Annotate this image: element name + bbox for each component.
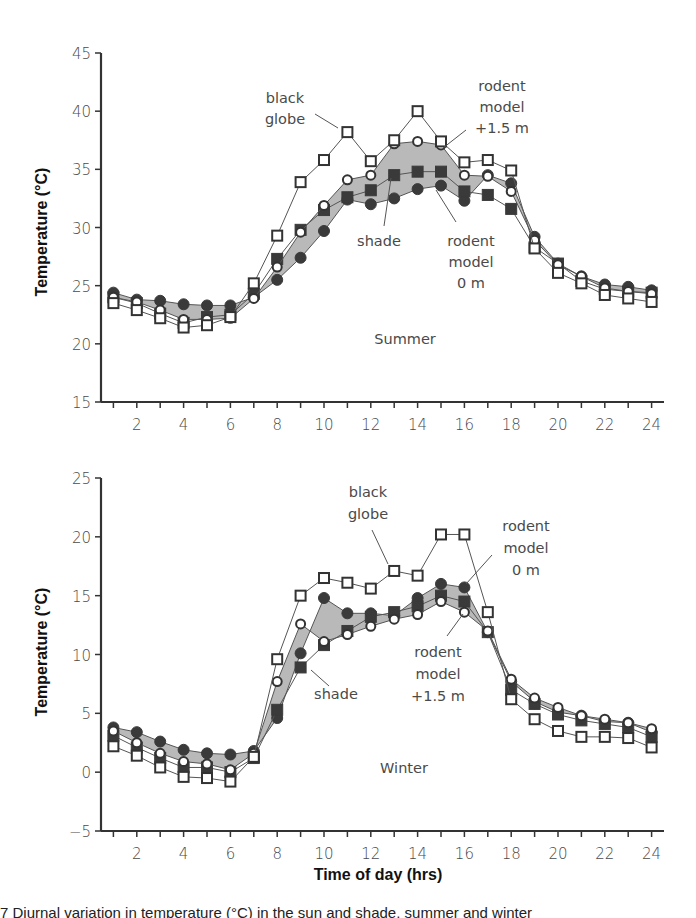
summer-x-tick-label: 10 <box>314 416 333 434</box>
summer-marker-rodent-model-0-m <box>436 180 447 191</box>
winter-line-black-globe <box>113 534 651 781</box>
winter-label-rodent-low-line3: 0 m <box>512 562 540 578</box>
winter-marker-black-globe <box>155 762 165 772</box>
winter-marker-shade <box>459 596 470 607</box>
winter-marker-shade <box>365 611 376 622</box>
winter-marker-black-globe <box>249 752 259 762</box>
summer-marker-black-globe <box>600 290 610 300</box>
winter-marker-black-globe <box>576 732 586 742</box>
winter-x-tick-label: 20 <box>548 845 567 863</box>
winter-leader-rodent-low <box>466 555 492 584</box>
summer-marker-shade <box>412 166 423 177</box>
winter-y-tick-label: 20 <box>72 529 91 547</box>
summer-label-black-globe-line2: globe <box>265 111 305 127</box>
summer-leader-rodent-low <box>436 190 456 222</box>
summer-marker-black-globe <box>225 312 235 322</box>
summer-x-tick-label: 8 <box>272 416 282 434</box>
winter-x-tick-label: 12 <box>361 845 380 863</box>
summer-marker-rodent-model-0-m <box>389 193 400 204</box>
winter-y-tick-label: 10 <box>72 647 91 665</box>
summer-marker-black-globe <box>155 313 165 323</box>
summer-marker-rodent-model-0-m <box>178 299 189 310</box>
winter-marker-rodent-model-1-5-m <box>437 597 446 606</box>
winter-marker-rodent-model-1-5-m <box>156 749 165 758</box>
winter-marker-rodent-model-1-5-m <box>624 718 633 727</box>
summer-label-rodent-high-line2: model <box>479 99 524 115</box>
winter-marker-rodent-model-0-m <box>178 744 189 755</box>
summer-y-tick-label: 20 <box>72 336 91 354</box>
winter-marker-rodent-model-1-5-m <box>413 610 422 619</box>
winter-x-tick-label: 8 <box>272 845 282 863</box>
summer-x-tick-label: 4 <box>179 416 189 434</box>
x-axis-title: Time of day (hrs) <box>314 866 443 883</box>
summer-label-rodent-low-line3: 0 m <box>457 275 485 291</box>
winter-marker-black-globe <box>413 571 423 581</box>
summer-y-tick-label: 45 <box>72 45 91 63</box>
summer-y-axis-title: Temperature (°C) <box>33 168 50 297</box>
winter-leader-black-globe <box>372 530 388 564</box>
winter-marker-rodent-model-1-5-m <box>530 694 539 703</box>
summer-marker-rodent-model-1-5-m <box>273 263 282 272</box>
summer-marker-rodent-model-0-m <box>319 225 330 236</box>
summer-x-tick-label: 18 <box>502 416 521 434</box>
winter-label-shade: shade <box>314 686 358 702</box>
winter-marker-black-globe <box>225 777 235 787</box>
summer-x-tick-label: 12 <box>361 416 380 434</box>
summer-marker-black-globe <box>249 278 259 288</box>
winter-label-rodent-low-line1: rodent <box>502 518 550 534</box>
winter-label-rodent-low-line2: model <box>503 540 548 556</box>
winter-marker-black-globe <box>366 584 376 594</box>
summer-marker-black-globe <box>483 155 493 165</box>
summer-marker-black-globe <box>576 278 586 288</box>
winter-label-black-globe-line2: globe <box>348 506 388 522</box>
summer-marker-rodent-model-0-m <box>365 199 376 210</box>
winter-marker-rodent-model-0-m <box>225 749 236 760</box>
summer-x-tick-label: 24 <box>642 416 661 434</box>
winter-chart-panel: −5051015202524681012141618202224 <box>69 470 664 863</box>
summer-marker-rodent-model-1-5-m <box>366 171 375 180</box>
summer-marker-rodent-model-1-5-m <box>483 172 492 181</box>
winter-marker-rodent-model-1-5-m <box>460 608 469 617</box>
summer-marker-black-globe <box>436 136 446 146</box>
winter-marker-rodent-model-1-5-m <box>343 630 352 639</box>
winter-label-rodent-high-line2: model <box>415 666 460 682</box>
winter-leader-rodent-high <box>447 614 463 636</box>
summer-marker-black-globe <box>342 127 352 137</box>
figure-canvas: 1520253035404524681012141618202224 −5051… <box>0 0 696 918</box>
winter-x-tick-label: 10 <box>314 845 333 863</box>
winter-y-tick-label: −5 <box>69 823 91 841</box>
summer-marker-black-globe <box>459 157 469 167</box>
winter-x-tick-label: 2 <box>132 845 142 863</box>
winter-marker-rodent-model-1-5-m <box>366 622 375 631</box>
summer-label-rodent-high-line1: rodent <box>478 78 526 94</box>
summer-x-tick-label: 22 <box>595 416 614 434</box>
winter-x-tick-label: 22 <box>595 845 614 863</box>
summer-marker-rodent-model-0-m <box>295 252 306 263</box>
summer-marker-rodent-model-1-5-m <box>343 175 352 184</box>
summer-marker-black-globe <box>623 293 633 303</box>
summer-label-rodent-low-line2: model <box>448 254 493 270</box>
winter-marker-rodent-model-1-5-m <box>296 619 305 628</box>
summer-marker-rodent-model-1-5-m <box>507 187 516 196</box>
winter-x-tick-label: 4 <box>179 845 189 863</box>
winter-marker-black-globe <box>108 741 118 751</box>
winter-marker-black-globe <box>202 773 212 783</box>
winter-marker-rodent-model-0-m <box>319 593 330 604</box>
summer-marker-black-globe <box>179 323 189 333</box>
winter-marker-shade <box>272 704 283 715</box>
winter-marker-rodent-model-1-5-m <box>179 757 188 766</box>
winter-x-tick-label: 14 <box>408 845 427 863</box>
winter-marker-rodent-model-0-m <box>155 736 166 747</box>
winter-marker-rodent-model-1-5-m <box>554 703 563 712</box>
summer-marker-shade <box>342 192 353 203</box>
winter-marker-shade <box>295 662 306 673</box>
summer-leader-black-globe <box>315 114 338 128</box>
winter-marker-rodent-model-1-5-m <box>647 724 656 733</box>
winter-marker-black-globe <box>296 591 306 601</box>
summer-marker-black-globe <box>553 268 563 278</box>
winter-marker-black-globe <box>600 732 610 742</box>
winter-x-tick-label: 6 <box>226 845 236 863</box>
summer-y-tick-label: 35 <box>72 161 91 179</box>
summer-marker-rodent-model-1-5-m <box>249 294 258 303</box>
summer-marker-black-globe <box>202 320 212 330</box>
